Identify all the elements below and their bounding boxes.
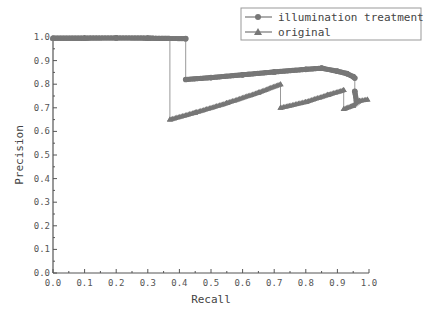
x-tick-label: 1.0 — [361, 278, 377, 288]
precision-recall-chart: 0.00.10.20.30.40.50.60.70.80.91.00.00.10… — [0, 0, 437, 322]
y-tick-label: 0.5 — [34, 150, 50, 160]
y-tick-label: 0.2 — [34, 221, 50, 231]
x-tick-label: 0.8 — [298, 278, 314, 288]
y-tick-label: 0.6 — [34, 126, 50, 136]
y-tick-label: 0.3 — [34, 197, 50, 207]
y-tick-label: 0.4 — [34, 174, 50, 184]
legend: illumination treatment original — [241, 8, 424, 40]
y-tick-label: 0.7 — [34, 103, 50, 113]
y-tick-label: 0.8 — [34, 79, 50, 89]
legend-label-illumination: illumination treatment — [278, 11, 424, 24]
y-tick-label: 0.1 — [34, 244, 50, 254]
x-tick-label: 0.2 — [108, 278, 124, 288]
x-tick-label: 0.6 — [234, 278, 250, 288]
x-tick-label: 0.3 — [140, 278, 156, 288]
y-axis-title: Precision — [13, 125, 26, 185]
circle-marker-icon — [255, 14, 261, 20]
y-tick-label: 0.9 — [34, 56, 50, 66]
x-tick-label: 0.4 — [171, 278, 187, 288]
x-tick-label: 0.5 — [203, 278, 219, 288]
x-tick-label: 0.9 — [329, 278, 345, 288]
x-tick-label: 0.7 — [266, 278, 282, 288]
x-tick-label: 0.0 — [45, 278, 61, 288]
y-tick-label: 1.0 — [34, 32, 50, 42]
y-tick-label: 0.0 — [34, 268, 50, 278]
x-axis-title: Recall — [191, 293, 231, 306]
series-layer — [50, 35, 370, 122]
x-tick-label: 0.1 — [76, 278, 92, 288]
legend-label-original: original — [278, 26, 331, 39]
series-0 — [50, 35, 359, 103]
